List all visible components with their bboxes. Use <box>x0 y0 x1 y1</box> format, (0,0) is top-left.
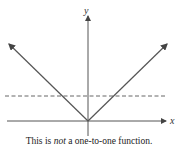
abs-right-branch <box>88 44 167 121</box>
y-axis-label: y <box>83 5 89 16</box>
caption: This is not a one-to-one function. <box>0 136 178 146</box>
x-axis-label: x <box>169 115 175 126</box>
caption-prefix: This is <box>26 136 54 146</box>
abs-left-branch <box>9 44 88 121</box>
caption-emphasis: not <box>54 136 66 146</box>
graph: x y <box>0 0 178 151</box>
caption-suffix: a one-to-one function. <box>66 136 153 146</box>
